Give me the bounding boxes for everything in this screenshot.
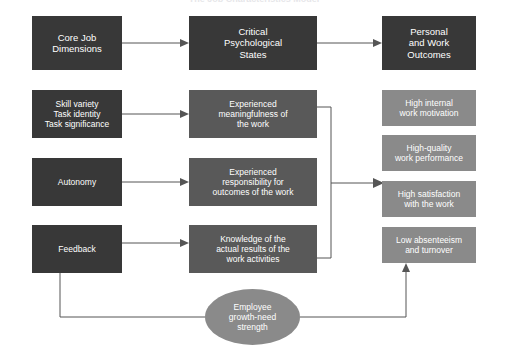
arrow-skill-to-meaningfulness xyxy=(122,110,189,118)
psychological-state-knowledge-label: Knowledge of theactual results of thewor… xyxy=(192,234,314,264)
diagram-canvas: The Job Characteristics Model xyxy=(0,0,508,354)
arrow-autonomy-to-responsibility xyxy=(122,178,189,186)
header-core-job-dimensions: Core JobDimensions xyxy=(32,16,122,70)
core-dimension-autonomy: Autonomy xyxy=(32,158,122,206)
arrow-core-to-critical xyxy=(122,39,189,47)
core-dimension-skill-variety: Skill varietyTask identityTask significa… xyxy=(32,90,122,138)
arrow-critical-to-outcomes xyxy=(317,39,382,47)
core-dimension-autonomy-label: Autonomy xyxy=(35,177,119,187)
header-core-job-dimensions-label: Core JobDimensions xyxy=(35,32,119,54)
header-personal-and-work-outcomes: Personaland WorkOutcomes xyxy=(382,16,476,70)
outcome-high-satisfaction-with-the-work: High satisfactionwith the work xyxy=(382,181,476,217)
outcome-high-internal-work-motivation-label: High internalwork motivation xyxy=(385,98,473,118)
outcome-high-quality-work-performance: High-qualitywork performance xyxy=(382,135,476,171)
outcome-high-internal-work-motivation: High internalwork motivation xyxy=(382,90,476,126)
moderator-employee-growth-need-strength: Employeegrowth-needstrength xyxy=(205,289,300,345)
core-dimension-feedback-label: Feedback xyxy=(35,244,119,254)
psychological-state-meaningfulness-label: Experiencedmeaningfulness ofthe work xyxy=(192,99,314,129)
psychological-state-responsibility: Experiencedresponsibility foroutcomes of… xyxy=(189,158,317,206)
arrow-feedback-to-knowledge xyxy=(122,239,189,247)
outcome-low-absenteeism-and-turnover-label: Low absenteeismand turnover xyxy=(385,235,473,255)
core-dimension-feedback: Feedback xyxy=(32,225,122,273)
outcome-low-absenteeism-and-turnover: Low absenteeismand turnover xyxy=(382,227,476,263)
psychological-state-responsibility-label: Experiencedresponsibility foroutcomes of… xyxy=(192,167,314,197)
psychological-state-meaningfulness: Experiencedmeaningfulness ofthe work xyxy=(189,90,317,138)
outcome-high-quality-work-performance-label: High-qualitywork performance xyxy=(385,143,473,163)
outcome-high-satisfaction-with-the-work-label: High satisfactionwith the work xyxy=(385,189,473,209)
bus-states-to-outcomes xyxy=(317,107,384,258)
moderator-label: Employeegrowth-needstrength xyxy=(229,302,276,332)
header-personal-and-work-outcomes-label: Personaland WorkOutcomes xyxy=(385,26,473,60)
psychological-state-knowledge: Knowledge of theactual results of thewor… xyxy=(189,225,317,273)
header-critical-psychological-states: CriticalPsychologicalStates xyxy=(189,16,317,70)
core-dimension-skill-variety-label: Skill varietyTask identityTask significa… xyxy=(35,99,119,129)
header-critical-psychological-states-label: CriticalPsychologicalStates xyxy=(192,26,314,60)
